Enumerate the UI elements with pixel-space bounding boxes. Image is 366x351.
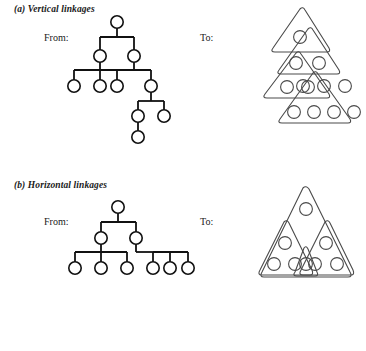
figure-root: (a) Vertical linkages From: To: bbox=[0, 0, 366, 351]
panel-b-to-triangles bbox=[0, 0, 366, 351]
